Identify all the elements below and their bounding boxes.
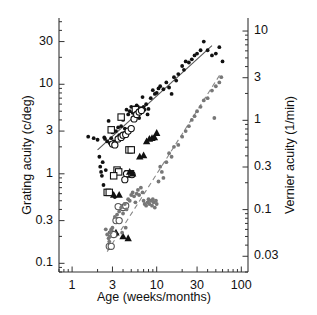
data-point — [174, 79, 178, 83]
data-point — [97, 155, 101, 159]
data-point — [98, 165, 102, 169]
data-point — [199, 48, 203, 52]
data-point — [106, 189, 112, 195]
data-point — [199, 105, 203, 109]
data-point — [202, 99, 206, 103]
data-point — [144, 204, 148, 208]
data-point — [212, 116, 216, 120]
data-point — [108, 234, 112, 238]
data-point — [146, 113, 150, 117]
data-point — [164, 160, 168, 164]
data-point — [158, 84, 162, 88]
data-point — [170, 92, 174, 96]
data-point — [154, 199, 158, 203]
data-point — [142, 199, 146, 203]
data-point — [108, 243, 114, 249]
data-point — [124, 226, 128, 230]
data-point — [157, 180, 161, 184]
data-point — [119, 124, 123, 128]
data-point — [190, 57, 194, 61]
data-point — [206, 48, 210, 52]
data-point — [118, 114, 124, 120]
data-point — [162, 87, 166, 91]
data-point — [102, 183, 106, 187]
data-point — [128, 199, 132, 203]
data-point — [138, 107, 144, 113]
data-point — [99, 170, 103, 174]
data-point — [162, 176, 166, 180]
scatter-plot-canvas — [0, 0, 317, 315]
data-point — [112, 142, 118, 148]
data-point — [153, 129, 160, 136]
data-point — [214, 84, 218, 88]
data-point — [119, 206, 123, 210]
data-point — [115, 191, 122, 198]
data-point — [140, 152, 147, 159]
data-point — [108, 127, 114, 133]
data-point — [92, 136, 96, 140]
data-point — [109, 231, 113, 235]
data-point — [190, 118, 194, 122]
data-point — [158, 165, 162, 169]
data-point — [115, 213, 119, 217]
data-point — [164, 80, 168, 84]
figure: Grating acuity (c/deg) Vernier acuity (1… — [0, 0, 317, 315]
data-point — [187, 124, 191, 128]
data-point — [141, 190, 145, 194]
data-point — [214, 52, 218, 56]
data-point — [149, 96, 153, 100]
data-point — [120, 231, 124, 235]
data-point — [111, 226, 115, 230]
data-point — [172, 145, 176, 149]
data-point — [110, 173, 116, 179]
data-point — [210, 54, 214, 58]
data-point — [125, 208, 129, 212]
data-point — [131, 190, 135, 194]
data-point — [206, 96, 210, 100]
data-point — [155, 202, 159, 206]
data-point — [153, 206, 157, 210]
data-point — [170, 155, 174, 159]
data-point — [180, 135, 184, 139]
data-point — [195, 52, 199, 56]
data-point — [86, 135, 90, 139]
data-point — [137, 193, 141, 197]
data-point — [116, 218, 122, 224]
data-point — [195, 109, 199, 113]
data-point — [187, 61, 191, 65]
data-point — [121, 212, 125, 216]
data-point — [202, 40, 206, 44]
data-point — [182, 68, 186, 72]
data-point — [176, 143, 180, 147]
data-point — [144, 102, 148, 106]
data-point — [219, 75, 223, 79]
data-point — [100, 174, 104, 178]
data-point — [210, 89, 214, 93]
data-point — [128, 125, 134, 131]
data-point — [104, 168, 108, 172]
data-point — [217, 45, 221, 49]
data-point — [160, 170, 164, 174]
data-point — [193, 114, 197, 118]
data-point — [128, 147, 134, 153]
data-point — [96, 138, 100, 142]
data-point — [122, 177, 128, 183]
data-point — [217, 80, 221, 84]
data-point — [117, 210, 121, 214]
data-point — [101, 160, 105, 164]
data-point — [180, 64, 184, 68]
data-point — [147, 107, 151, 111]
data-point — [107, 119, 111, 123]
data-point — [134, 200, 138, 204]
data-point — [167, 86, 171, 90]
data-point — [123, 202, 127, 206]
data-point — [184, 129, 188, 133]
data-point — [107, 240, 111, 244]
data-point — [155, 91, 159, 95]
data-point — [109, 136, 113, 140]
data-point — [167, 151, 171, 155]
data-point — [221, 60, 225, 64]
data-point — [141, 95, 145, 99]
data-points — [86, 40, 224, 250]
data-point — [126, 113, 130, 117]
